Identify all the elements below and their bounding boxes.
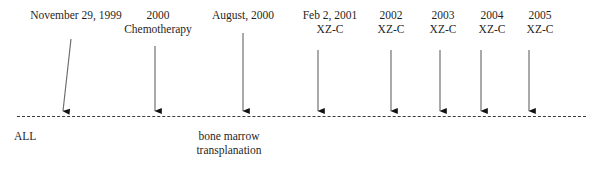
treatment-timeline-figure: November 29, 19992000ChemotherapyAugust,… bbox=[0, 0, 604, 176]
event-label-secondary: XZ-C bbox=[430, 22, 457, 36]
event-label-event-2005-xzc: 2005XZ-C bbox=[527, 8, 554, 36]
event-label-primary: November 29, 1999 bbox=[30, 9, 122, 21]
event-label-secondary: XZ-C bbox=[479, 22, 506, 36]
event-arrow-event-1999-11-29 bbox=[63, 39, 71, 111]
axis-caption-secondary: transplanation bbox=[196, 143, 261, 157]
event-label-event-2001-02-02-xzc: Feb 2, 2001XZ-C bbox=[303, 8, 358, 36]
event-label-event-2000-chemotherapy: 2000Chemotherapy bbox=[124, 8, 192, 36]
event-label-event-2002-xzc: 2002XZ-C bbox=[378, 8, 405, 36]
event-label-secondary: XZ-C bbox=[303, 22, 358, 36]
caption-bone-marrow-transplanation: bone marrowtransplanation bbox=[196, 129, 261, 157]
axis-caption-primary: ALL bbox=[14, 130, 36, 142]
event-label-primary: August, 2000 bbox=[212, 9, 274, 21]
event-label-primary: 2004 bbox=[481, 9, 504, 21]
event-label-event-2004-xzc: 2004XZ-C bbox=[479, 8, 506, 36]
event-label-primary: 2003 bbox=[432, 9, 455, 21]
event-label-event-1999-11-29: November 29, 1999 bbox=[30, 8, 122, 22]
timeline-axis bbox=[17, 116, 586, 117]
caption-all: ALL bbox=[14, 129, 36, 143]
event-label-event-2000-08: August, 2000 bbox=[212, 8, 274, 22]
event-label-event-2003-xzc: 2003XZ-C bbox=[430, 8, 457, 36]
event-label-primary: 2000 bbox=[146, 9, 169, 21]
event-label-primary: 2002 bbox=[380, 9, 403, 21]
event-label-secondary: Chemotherapy bbox=[124, 22, 192, 36]
event-label-secondary: XZ-C bbox=[378, 22, 405, 36]
event-label-primary: 2005 bbox=[529, 9, 552, 21]
event-label-primary: Feb 2, 2001 bbox=[303, 9, 358, 21]
event-label-secondary: XZ-C bbox=[527, 22, 554, 36]
axis-caption-primary: bone marrow bbox=[199, 130, 260, 142]
